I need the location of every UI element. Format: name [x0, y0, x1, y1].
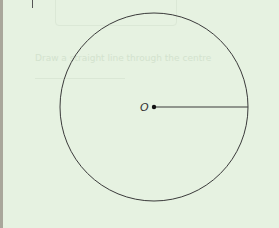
circle-diagram: O — [0, 0, 279, 228]
center-point — [152, 105, 156, 109]
center-label: O — [140, 101, 149, 114]
